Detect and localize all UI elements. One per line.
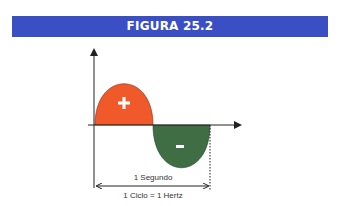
cycle-label: 1 Ciclo = 1 Hertz	[123, 191, 182, 200]
sine-wave-diagram: 1 Segundo 1 Ciclo = 1 Hertz	[0, 0, 346, 206]
minus-icon	[176, 145, 184, 148]
period-label: 1 Segundo	[134, 173, 173, 182]
